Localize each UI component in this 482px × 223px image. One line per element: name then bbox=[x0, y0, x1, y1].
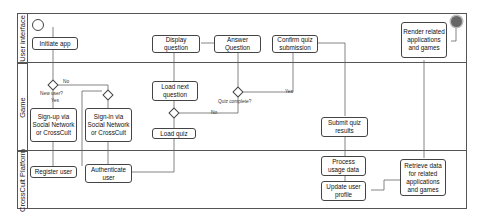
label-quiz-complete-yes: Yes bbox=[285, 89, 293, 94]
node-register-user: Register user bbox=[30, 166, 77, 178]
node-initiate-app: Initiate app bbox=[32, 37, 78, 50]
node-signin: Sign-in via Social Network or CrossCult bbox=[85, 108, 132, 142]
node-update-user-profile: Update user profile bbox=[321, 181, 366, 201]
label-new-user: New user? bbox=[40, 91, 63, 96]
label-quiz-complete: Quiz complete? bbox=[218, 99, 251, 104]
node-load-quiz: Load quiz bbox=[152, 128, 196, 139]
label-quiz-complete-no: No bbox=[211, 110, 217, 115]
node-submit-quiz-results: Submit quiz results bbox=[321, 117, 368, 137]
node-signup: Sign-up via Social Network or CrossCult bbox=[30, 108, 77, 142]
node-load-next-question: Load next question bbox=[152, 81, 198, 101]
node-authenticate-user: Authenticate user bbox=[85, 164, 132, 183]
node-display-question: Display question bbox=[152, 35, 200, 53]
node-retrieve-data: Retrieve data for related applications a… bbox=[400, 159, 446, 196]
start-node bbox=[32, 19, 44, 31]
label-new-user-yes: Yes bbox=[51, 98, 59, 103]
node-answer-question: Answer Question bbox=[214, 35, 261, 53]
node-render-related: Render related applications and games bbox=[401, 22, 447, 58]
node-confirm-quiz-submission: Confirm quiz submission bbox=[272, 35, 318, 53]
label-new-user-no: No bbox=[63, 79, 69, 84]
end-node bbox=[451, 16, 462, 27]
node-process-usage-data: Process usage data bbox=[321, 156, 366, 176]
